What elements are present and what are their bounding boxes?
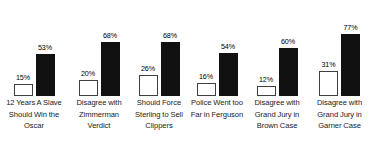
category-label-line: Disagree with: [247, 97, 307, 109]
bar-group: 12%60%: [246, 0, 308, 96]
category-label-line: Grand Jury in: [309, 109, 370, 121]
bar-slot: 60%: [279, 0, 298, 96]
category-label: Should ForceSterling to SellClippers: [130, 97, 188, 132]
bar[interactable]: [219, 53, 238, 96]
category-label-line: Verdict: [69, 120, 129, 132]
bar[interactable]: [161, 42, 180, 96]
category-label-line: Brown Case: [247, 120, 307, 132]
category-label-line: Disagree with: [309, 97, 370, 109]
category-label: Police Went tooFar in Ferguson: [188, 97, 246, 120]
bar[interactable]: [341, 34, 360, 96]
category-label-line: Grand Jury in: [247, 109, 307, 121]
category-label-line: 12 Years A Slave: [1, 97, 67, 109]
category-label: Disagree withZimmermanVerdict: [68, 97, 130, 132]
bar-slot: 20%: [79, 0, 98, 96]
bar-slot: 77%: [341, 0, 360, 96]
bar[interactable]: [197, 83, 216, 96]
bar[interactable]: [79, 80, 98, 96]
bar-value-label: 31%: [321, 61, 335, 69]
category-label-line: Oscar: [1, 120, 67, 132]
bar-slot: 54%: [219, 0, 238, 96]
bar-value-label: 53%: [38, 44, 52, 52]
bar-value-label: 12%: [259, 76, 273, 84]
category-label-line: Garner Case: [309, 120, 370, 132]
category-label-line: Should Force: [131, 97, 187, 109]
bar[interactable]: [36, 54, 55, 96]
bar-value-label: 15%: [16, 74, 30, 82]
bar-slot: 12%: [257, 0, 276, 96]
category-axis: 12 Years A SlaveShould Win theOscarDisag…: [0, 97, 371, 146]
category-label: 12 Years A SlaveShould Win theOscar: [0, 97, 68, 132]
category-label: Disagree withGrand Jury inBrown Case: [246, 97, 308, 132]
category-label-line: Police Went too: [189, 97, 245, 109]
bar-value-label: 26%: [141, 65, 155, 73]
bar[interactable]: [14, 84, 33, 96]
bar-value-label: 68%: [163, 32, 177, 40]
bar-group: 20%68%: [68, 0, 130, 96]
bar-slot: 26%: [139, 0, 158, 96]
category-label-line: Zimmerman: [69, 109, 129, 121]
bar-slot: 16%: [197, 0, 216, 96]
bar-group: 31%77%: [308, 0, 371, 96]
bar-slot: 53%: [36, 0, 55, 96]
bar-value-label: 68%: [103, 32, 117, 40]
bar-group: 15%53%: [0, 0, 68, 96]
bar-group: 16%54%: [188, 0, 246, 96]
category-label-line: Disagree with: [69, 97, 129, 109]
bar-value-label: 54%: [221, 43, 235, 51]
bar-value-label: 20%: [81, 70, 95, 78]
bar-group: 26%68%: [130, 0, 188, 96]
category-label-line: Clippers: [131, 120, 187, 132]
bar[interactable]: [279, 48, 298, 96]
bar-value-label: 16%: [199, 73, 213, 81]
bar-slot: 68%: [161, 0, 180, 96]
bar-value-label: 77%: [343, 24, 357, 32]
bar[interactable]: [101, 42, 120, 96]
category-label-line: Should Win the: [1, 109, 67, 121]
bar-value-label: 60%: [281, 38, 295, 46]
plot-area: 15%53%20%68%26%68%16%54%12%60%31%77%: [0, 0, 371, 96]
bar[interactable]: [319, 71, 338, 96]
bar-slot: 15%: [14, 0, 33, 96]
bar-slot: 68%: [101, 0, 120, 96]
category-label-line: Sterling to Sell: [131, 109, 187, 121]
category-label-line: Far in Ferguson: [189, 109, 245, 121]
bar-slot: 31%: [319, 0, 338, 96]
bar[interactable]: [139, 75, 158, 96]
bar-chart: 15%53%20%68%26%68%16%54%12%60%31%77% 12 …: [0, 0, 371, 146]
category-label: Disagree withGrand Jury inGarner Case: [308, 97, 371, 132]
bar[interactable]: [257, 86, 276, 96]
